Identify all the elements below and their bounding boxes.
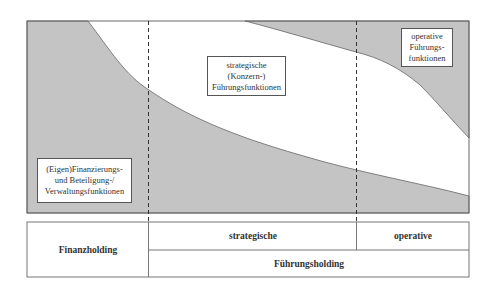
label-line: funktionen [402, 53, 452, 64]
cell-fuehrungsholding: Führungsholding [149, 250, 469, 277]
cell-finanzholding: Finanzholding [27, 222, 149, 277]
label-line: operative [402, 31, 452, 42]
label-line: und Beteiligung-/ [38, 175, 131, 186]
label-line: (Eigen)Finanzierungs- [38, 164, 131, 175]
label-line: Führungsfunktionen [208, 82, 285, 93]
label-line: Führungs- [402, 42, 452, 53]
operative-functions-label: operative Führungs- funktionen [401, 28, 453, 67]
label-line: (Konzern-) [208, 71, 285, 82]
label-line: Verwaltungsfunktionen [38, 186, 131, 197]
strategic-functions-label: strategische (Konzern-) Führungsfunktion… [207, 56, 286, 96]
cell-strategische: strategische [149, 222, 357, 250]
financial-functions-label: (Eigen)Finanzierungs- und Beteiligung-/ … [37, 158, 132, 203]
label-line: strategische [208, 60, 285, 71]
cell-operative: operative [357, 222, 469, 250]
